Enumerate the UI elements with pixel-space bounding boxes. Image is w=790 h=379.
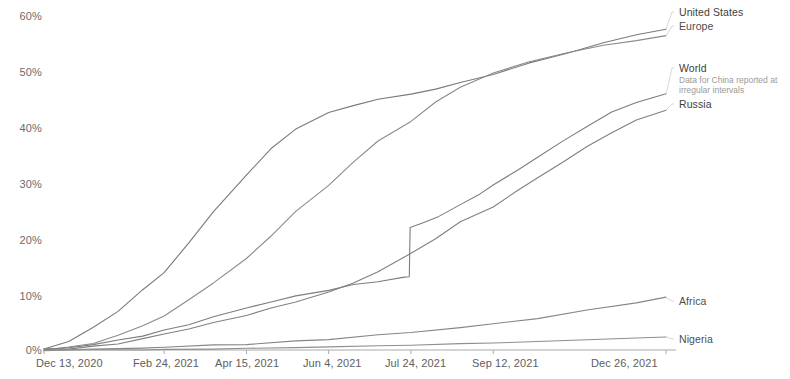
series-label-russia: Russia: [679, 98, 712, 110]
y-tick-30: 30%: [2, 178, 42, 190]
line-chart-plot: [0, 0, 790, 379]
y-tick-10: 10%: [2, 290, 42, 302]
leader-line-europe: [666, 26, 674, 36]
world-note-line-2: irregular intervals: [679, 85, 744, 95]
x-tick-sep-12-2021: Sep 12, 2021: [472, 357, 539, 369]
x-tick-feb-24-2021: Feb 24, 2021: [133, 357, 199, 369]
x-tick-apr-15-2021: Apr 15, 2021: [215, 357, 279, 369]
leader-line-united-states: [666, 12, 674, 29]
leader-line-nigeria: [666, 337, 674, 339]
y-tick-50: 50%: [2, 66, 42, 78]
series-label-europe: Europe: [679, 20, 713, 32]
leader-line-world: [666, 68, 674, 94]
axis-group: [44, 350, 676, 354]
x-tick-jun-4-2021: Jun 4, 2021: [303, 357, 362, 369]
chart-container: 60% 50% 40% 30% 20% 10% 0% Dec 13, 2020 …: [0, 0, 790, 379]
leader-line-russia: [666, 104, 674, 110]
series-line-united-states: [44, 29, 666, 349]
series-label-africa: Africa: [679, 295, 706, 307]
label-leader-lines: [666, 12, 674, 339]
leader-line-africa: [666, 298, 674, 301]
series-label-united-states: United States: [679, 6, 743, 18]
series-line-russia: [44, 110, 666, 349]
x-tick-jul-24-2021: Jul 24, 2021: [385, 357, 446, 369]
world-note-line-1: Data for China reported at: [679, 75, 777, 85]
series-label-world: World: [679, 62, 707, 74]
y-tick-60: 60%: [2, 10, 42, 22]
x-tick-dec-13-2020: Dec 13, 2020: [36, 357, 103, 369]
series-label-nigeria: Nigeria: [679, 333, 713, 345]
series-lines: [44, 29, 666, 350]
x-tick-dec-26-2021: Dec 26, 2021: [591, 357, 658, 369]
series-line-europe: [44, 36, 666, 350]
y-tick-20: 20%: [2, 234, 42, 246]
y-tick-40: 40%: [2, 122, 42, 134]
y-tick-0: 0%: [2, 344, 42, 356]
series-line-africa: [44, 297, 666, 351]
series-line-world: [44, 94, 666, 350]
